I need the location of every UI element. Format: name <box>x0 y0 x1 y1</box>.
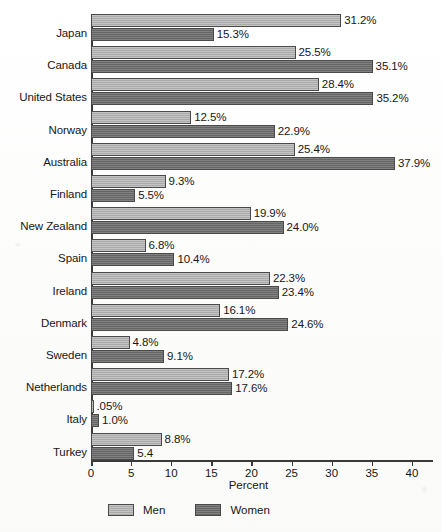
bar-value-label: 25.4% <box>298 143 330 156</box>
legend-item-women: Women <box>195 504 269 516</box>
bar-women <box>91 189 135 202</box>
bar-women <box>91 28 214 41</box>
category-label-denmark: Denmark <box>3 317 87 329</box>
bar-men <box>91 433 162 446</box>
bar-value-label: 35.2% <box>376 92 408 105</box>
legend-label-women: Women <box>230 504 269 516</box>
bar-men <box>91 175 166 188</box>
bar-value-label: 12.5% <box>194 111 226 124</box>
bar-women <box>91 318 288 331</box>
bar-men <box>91 14 341 27</box>
category-label-australia: Australia <box>3 156 87 168</box>
category-label-turkey: Turkey <box>3 446 87 458</box>
x-tick <box>171 461 172 466</box>
bar-group: 19.9%24.0% <box>91 207 436 236</box>
category-label-canada: Canada <box>3 59 87 71</box>
category-label-ireland: Ireland <box>3 285 87 297</box>
bar-value-label: 35.1% <box>376 60 408 73</box>
bar-value-label: 9.1% <box>167 350 193 363</box>
bar-group: 17.2%17.6% <box>91 368 436 397</box>
bar-women <box>91 447 134 460</box>
chart-legend: Men Women <box>108 504 270 516</box>
bar-value-label: 24.0% <box>287 221 319 234</box>
category-label-italy: Italy <box>3 413 87 425</box>
category-label-netherlands: Netherlands <box>3 381 87 393</box>
category-label-new-zealand: New Zealand <box>3 220 87 232</box>
bar-women <box>91 350 164 363</box>
bar-men <box>91 368 229 381</box>
legend-item-men: Men <box>108 504 165 516</box>
category-label-sweden: Sweden <box>3 349 87 361</box>
bar-value-label: 4.8% <box>133 336 159 349</box>
bar-chart: 31.2%15.3%25.5%35.1%28.4%35.2%12.5%22.9%… <box>0 0 442 532</box>
x-tick-label: 40 <box>406 467 419 480</box>
category-label-japan: Japan <box>3 27 87 39</box>
category-label-spain: Spain <box>3 252 87 264</box>
bar-value-label: 28.4% <box>322 78 354 91</box>
x-tick <box>131 461 132 466</box>
bar-group: .05%1.0% <box>91 400 436 429</box>
plot-area: 31.2%15.3%25.5%35.1%28.4%35.2%12.5%22.9%… <box>91 8 436 460</box>
bar-women <box>91 382 232 395</box>
bar-value-label: 6.8% <box>149 239 175 252</box>
x-tick <box>251 461 252 466</box>
bar-value-label: 23.4% <box>282 286 314 299</box>
bar-value-label: 22.3% <box>273 272 305 285</box>
bar-women <box>91 221 284 234</box>
x-tick <box>91 461 92 466</box>
bar-value-label: 25.5% <box>299 46 331 59</box>
bar-women <box>91 125 275 138</box>
bar-men <box>91 46 296 59</box>
legend-swatch-women-icon <box>195 504 221 516</box>
bar-men <box>91 272 270 285</box>
bar-women <box>91 414 99 427</box>
bar-value-label: 37.9% <box>398 157 430 170</box>
bar-group: 28.4%35.2% <box>91 78 436 107</box>
x-tick <box>332 461 333 466</box>
bar-men <box>91 78 319 91</box>
bar-value-label: .05% <box>97 400 123 413</box>
bar-group: 31.2%15.3% <box>91 14 436 43</box>
x-tick <box>211 461 212 466</box>
bar-group: 25.5%35.1% <box>91 46 436 75</box>
category-labels: JapanCanadaUnited StatesNorwayAustraliaF… <box>0 14 87 466</box>
bar-value-label: 15.3% <box>217 28 249 41</box>
bar-group: 9.3%5.5% <box>91 175 436 204</box>
bar-value-label: 22.9% <box>278 125 310 138</box>
bar-value-label: 9.3% <box>169 175 195 188</box>
legend-swatch-men-icon <box>108 504 134 516</box>
bar-value-label: 31.2% <box>344 14 376 27</box>
bar-group: 25.4%37.9% <box>91 143 436 172</box>
bar-value-label: 19.9% <box>254 207 286 220</box>
bar-value-label: 5.5% <box>138 189 164 202</box>
bar-value-label: 10.4% <box>177 253 209 266</box>
bar-value-label: 17.6% <box>235 382 267 395</box>
bar-value-label: 16.1% <box>223 304 255 317</box>
bar-value-label: 8.8% <box>165 433 191 446</box>
bar-men <box>91 207 251 220</box>
bar-men <box>91 304 220 317</box>
bar-women <box>91 60 373 73</box>
x-tick <box>412 461 413 466</box>
bar-value-label: 1.0% <box>102 414 128 427</box>
bar-value-label: 24.6% <box>291 318 323 331</box>
bar-men <box>91 336 130 349</box>
bar-group: 12.5%22.9% <box>91 111 436 140</box>
bar-group: 6.8%10.4% <box>91 239 436 268</box>
bar-group: 16.1%24.6% <box>91 304 436 333</box>
bar-men <box>91 400 94 413</box>
bar-women <box>91 92 373 105</box>
bar-women <box>91 253 174 266</box>
bar-women <box>91 286 279 299</box>
category-label-finland: Finland <box>3 188 87 200</box>
bar-men <box>91 111 191 124</box>
bar-men <box>91 239 146 252</box>
x-axis-title: Percent <box>91 479 406 491</box>
x-tick <box>292 461 293 466</box>
bar-value-label: 17.2% <box>232 368 264 381</box>
bar-value-label: 5.4 <box>137 447 153 460</box>
bar-group: 4.8%9.1% <box>91 336 436 365</box>
bar-group: 22.3%23.4% <box>91 272 436 301</box>
bar-group: 8.8%5.4 <box>91 433 436 462</box>
bar-women <box>91 157 395 170</box>
